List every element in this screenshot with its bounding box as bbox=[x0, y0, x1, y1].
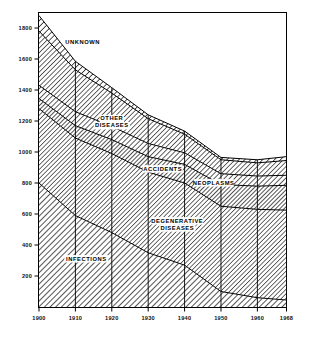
x-tick-label-1960: 1960 bbox=[251, 315, 264, 321]
y-axis-tick-labels: 20040060080010001200140016001800 bbox=[19, 25, 32, 279]
x-tick-label-1940: 1940 bbox=[178, 315, 191, 321]
x-axis-tick-labels: 19001910192019301940195019601968 bbox=[32, 315, 293, 321]
x-tick-label-1968: 1968 bbox=[280, 315, 293, 321]
x-tick-label-1900: 1900 bbox=[32, 315, 45, 321]
stacked-bands bbox=[39, 16, 287, 307]
y-tick-label-1400: 1400 bbox=[19, 87, 32, 93]
y-tick-label-1000: 1000 bbox=[19, 149, 32, 155]
x-tick-label-1950: 1950 bbox=[214, 315, 227, 321]
band-label-other-diseases: OTHER bbox=[100, 115, 123, 121]
y-tick-label-1200: 1200 bbox=[19, 118, 32, 124]
band-label-neoplasms: NEOPLASMS bbox=[193, 180, 235, 186]
band-label-unknown: UNKNOWN bbox=[65, 39, 100, 45]
chart-canvas: 20040060080010001200140016001800 1900191… bbox=[0, 0, 311, 340]
band-label-accidents: ACCIDENTS bbox=[143, 166, 182, 172]
y-tick-label-1800: 1800 bbox=[19, 25, 32, 31]
y-tick-label-400: 400 bbox=[22, 242, 32, 248]
x-tick-label-1930: 1930 bbox=[141, 315, 154, 321]
band-label-degenerative-diseases: DEGENERATIVE bbox=[151, 218, 203, 224]
band-label-degenerative-diseases: DISEASES bbox=[160, 225, 194, 231]
x-tick-label-1920: 1920 bbox=[105, 315, 118, 321]
band-label-infections: INFECTIONS bbox=[66, 256, 107, 262]
mortality-stacked-area-figure: 20040060080010001200140016001800 1900191… bbox=[0, 0, 311, 340]
y-tick-label-600: 600 bbox=[22, 211, 32, 217]
y-tick-label-1600: 1600 bbox=[19, 56, 32, 62]
x-tick-label-1910: 1910 bbox=[69, 315, 82, 321]
y-tick-label-200: 200 bbox=[22, 273, 32, 279]
y-tick-label-800: 800 bbox=[22, 180, 32, 186]
band-label-other-diseases: DISEASES bbox=[95, 122, 129, 128]
